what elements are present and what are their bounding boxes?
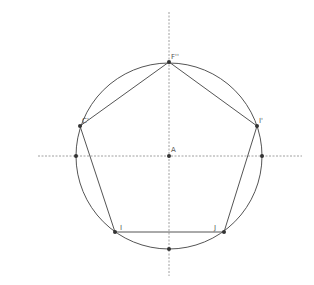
point-a — [167, 154, 171, 158]
label-i-prime: I' — [259, 117, 263, 125]
point-left-axis — [74, 154, 78, 158]
label-f: F'' — [171, 53, 179, 61]
point-right-axis — [260, 154, 264, 158]
label-i: I — [120, 224, 122, 232]
label-c-prime: C' — [82, 117, 89, 125]
label-j: J — [213, 224, 216, 232]
label-a: A — [171, 146, 176, 154]
point-bottom-axis — [167, 247, 171, 251]
point-i — [113, 230, 117, 234]
point-j — [222, 230, 226, 234]
pentagon-construction-diagram: A F'' I' J I C' — [0, 0, 314, 285]
